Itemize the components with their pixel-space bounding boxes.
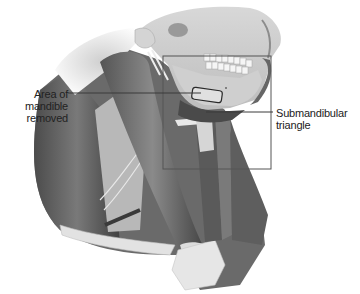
label-area-of-mandible-removed: Area of mandible removed (0, 88, 68, 124)
neck-anatomy-illustration (0, 0, 360, 294)
anterior-neck (230, 118, 268, 245)
label-submandibular-triangle: Submandibular triangle (276, 107, 360, 131)
label-line: mandible (0, 100, 68, 112)
label-line: triangle (276, 119, 360, 131)
label-line: Area of (0, 88, 68, 100)
label-line: removed (0, 112, 68, 124)
label-line: Submandibular (276, 107, 360, 119)
